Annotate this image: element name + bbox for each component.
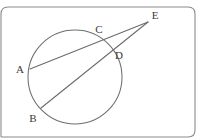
- point-label-e: E: [152, 9, 159, 21]
- secant-b-d-e: [41, 22, 148, 108]
- main-circle: [28, 30, 122, 124]
- point-label-d: D: [115, 49, 123, 61]
- point-label-a: A: [16, 63, 24, 75]
- geometry-diagram: A B C D E: [0, 0, 204, 140]
- figure-container: A B C D E: [0, 0, 204, 140]
- secant-a-c-e: [30, 22, 148, 69]
- point-label-b: B: [29, 112, 36, 124]
- point-label-c: C: [95, 23, 102, 35]
